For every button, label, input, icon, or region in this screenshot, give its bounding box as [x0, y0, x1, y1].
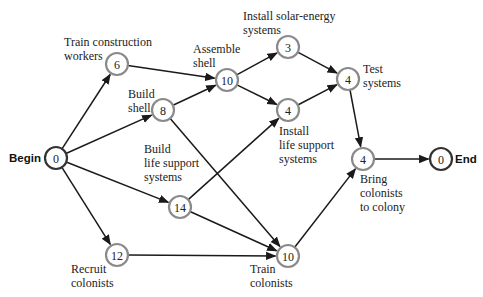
build-life-support-label-1: Build [144, 142, 171, 156]
node-duration: 4 [360, 153, 366, 167]
node-install-life-support: 4 [277, 99, 299, 121]
node-duration: 6 [114, 58, 120, 72]
node-duration: 0 [438, 153, 444, 167]
edge-build-shell-to-assemble-shell [173, 85, 216, 105]
train-colonists-label-1: Train [250, 262, 276, 276]
node-duration: 10 [282, 250, 294, 264]
assemble-shell-label-2: shell [193, 56, 216, 70]
node-duration: 12 [111, 249, 123, 263]
node-bring-colonists: 4 [352, 148, 374, 170]
edge-assemble-shell-to-install-solar [237, 53, 277, 75]
bring-colonists-label-2: colonists [360, 186, 403, 200]
node-duration: 8 [160, 104, 166, 118]
build-life-support-label-3: systems [144, 170, 182, 184]
bring-colonists-label-1: Bring [360, 172, 387, 186]
edge-begin-to-recruit-colonists [62, 167, 110, 244]
node-duration: 4 [285, 104, 291, 118]
node-duration: 10 [221, 74, 233, 88]
edge-install-solar-to-test-systems [298, 52, 337, 73]
node-duration: 3 [285, 41, 291, 55]
end-label: End [455, 153, 477, 165]
install-life-support-label-3: systems [279, 152, 317, 166]
install-solar-label-2: systems [243, 23, 281, 37]
labels-layer: Begin End Train construction workers Bui… [9, 9, 477, 290]
test-systems-label-2: systems [363, 76, 401, 90]
node-test-systems: 4 [337, 68, 359, 90]
node-build-life-support: 14 [169, 196, 191, 218]
edge-install-life-support-to-test-systems [298, 85, 337, 105]
build-life-support-label-2: life support [144, 156, 200, 170]
edge-assemble-shell-to-install-life-support [237, 85, 277, 105]
node-duration: 0 [53, 152, 59, 166]
node-train-construction: 6 [106, 53, 128, 75]
train-construction-label-2: workers [64, 49, 103, 63]
recruit-colonists-label-2: colonists [71, 276, 114, 290]
node-install-solar: 3 [277, 36, 299, 58]
test-systems-label-1: Test [363, 62, 383, 76]
activity-network-diagram: 0681034414121040 Begin End Train constru… [0, 0, 483, 297]
assemble-shell-label-1: Assemble [193, 42, 240, 56]
node-end: 0 [430, 148, 452, 170]
node-duration: 14 [174, 201, 186, 215]
nodes-layer: 0681034414121040 [45, 36, 452, 267]
install-solar-label-1: Install solar-energy [243, 9, 336, 23]
edge-recruit-colonists-to-train-colonists [128, 255, 276, 256]
bring-colonists-label-3: to colony [360, 200, 405, 214]
build-shell-label-1: Build [128, 87, 155, 101]
node-build-shell: 8 [152, 99, 174, 121]
recruit-colonists-label-1: Recruit [71, 262, 107, 276]
edge-begin-to-build-shell [66, 115, 152, 153]
edge-test-systems-to-bring-colonists [350, 90, 361, 147]
node-duration: 4 [345, 73, 351, 87]
install-life-support-label-2: life support [279, 138, 335, 152]
build-shell-label-2: shell [128, 101, 151, 115]
edge-build-life-support-to-train-colonists [190, 212, 277, 251]
begin-label: Begin [9, 152, 41, 164]
train-colonists-label-2: colonists [250, 276, 293, 290]
node-recruit-colonists: 12 [106, 244, 128, 266]
edge-build-life-support-to-install-life-support [188, 118, 279, 199]
node-begin: 0 [45, 147, 67, 169]
train-construction-label-1: Train construction [64, 35, 152, 49]
install-life-support-label-1: Install [279, 124, 310, 138]
node-assemble-shell: 10 [216, 69, 238, 91]
edge-train-colonists-to-bring-colonists [295, 169, 356, 247]
node-train-colonists: 10 [277, 245, 299, 267]
